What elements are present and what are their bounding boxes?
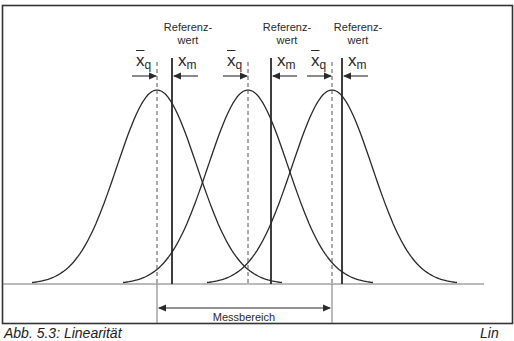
distribution-curves [32,90,457,282]
measured-value-symbol: xm [277,52,296,71]
reference-value-label: Referenz-wert [153,22,223,46]
figure-caption-right: Lin [480,325,499,341]
mean-value-symbol: xq [227,52,242,71]
mean-value-symbol: xq [311,52,326,71]
reference-value-label: Referenz-wert [323,22,393,46]
reference-lines [157,58,342,286]
measured-value-symbol: xm [178,52,197,71]
figure-caption: Abb. 5.3: Linearität [4,325,122,341]
mean-value-symbol: xq [136,52,151,71]
measured-value-symbol: xm [348,52,367,71]
range-label: Messbereich [194,312,294,323]
reference-value-label: Referenz-wert [252,22,322,46]
